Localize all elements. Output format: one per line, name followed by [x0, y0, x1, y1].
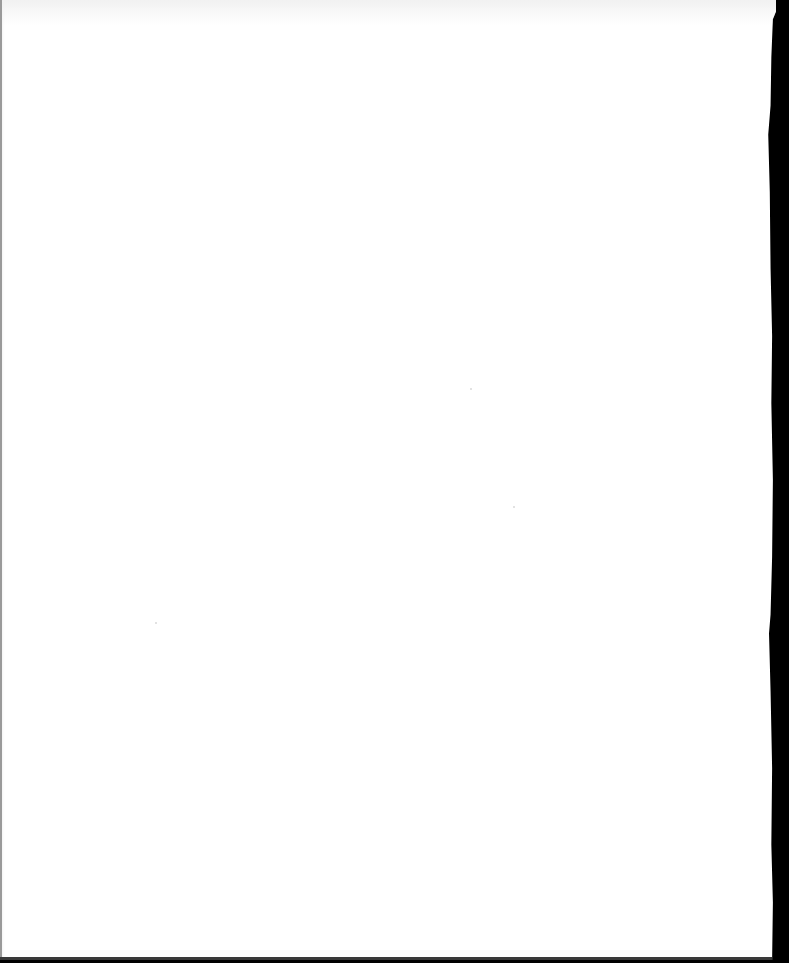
dust-speck	[155, 622, 157, 624]
blank-page	[0, 0, 776, 960]
dust-speck	[513, 506, 515, 508]
scanned-document	[0, 0, 789, 963]
page-bottom-edge	[0, 957, 776, 960]
page-top-shadow	[0, 0, 776, 26]
dust-speck	[470, 388, 472, 390]
page-left-edge	[0, 0, 2, 960]
